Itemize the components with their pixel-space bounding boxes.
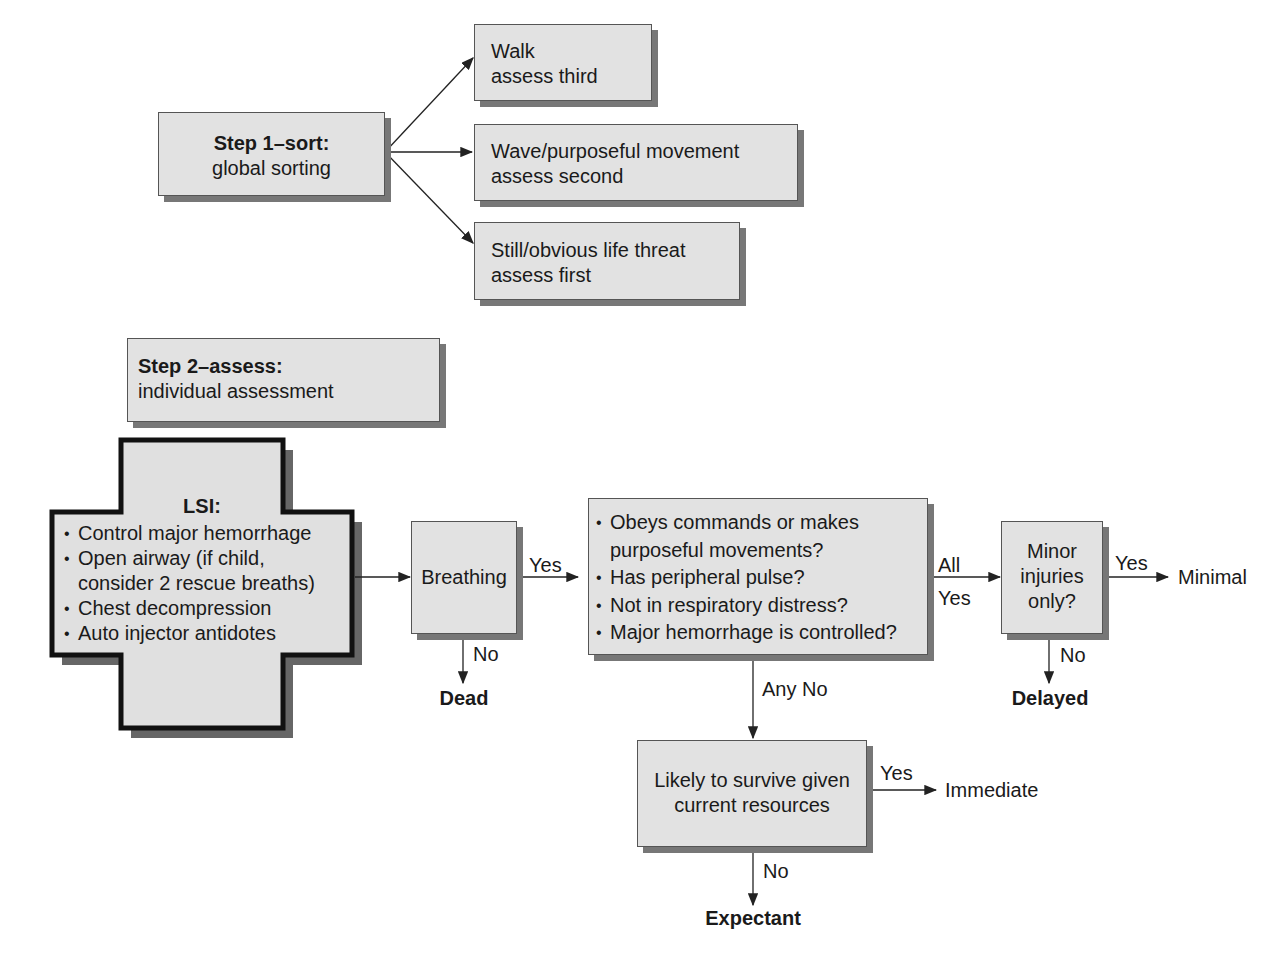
breathing-no-label: No (473, 642, 499, 667)
all-yes-label-1: All (938, 553, 960, 578)
minor-line1: Minor (1001, 539, 1103, 564)
breathing-yes-label: Yes (529, 553, 562, 578)
check-item: Not in respiratory distress? (596, 592, 897, 620)
minor-line2: injuries (1001, 564, 1103, 589)
step2-subtitle: individual assessment (138, 379, 334, 404)
sort-wave-priority: assess second (491, 164, 739, 189)
survive-text: Likely to survive given current resource… (637, 768, 867, 818)
lsi-item: Open airway (if child, (64, 546, 315, 571)
sort-still-priority: assess first (491, 263, 686, 288)
check-item: Major hemorrhage is controlled? (596, 619, 897, 647)
sort-box-still-text: Still/obvious life threat assess first (491, 238, 686, 288)
sort-wave-label: Wave/purposeful movement (491, 139, 739, 164)
lsi-item: Chest decompression (64, 596, 315, 621)
outcome-dead: Dead (424, 686, 504, 711)
outcome-delayed: Delayed (990, 686, 1110, 711)
sort-box-wave-text: Wave/purposeful movement assess second (491, 139, 739, 189)
outcome-minimal: Minimal (1178, 565, 1247, 590)
step1-title: Step 1–sort: (158, 131, 385, 156)
sort-walk-label: Walk (491, 39, 598, 64)
sort-box-walk-text: Walk assess third (491, 39, 598, 89)
breathing-label: Breathing (411, 565, 517, 590)
survive-line2: current resources (637, 793, 867, 818)
step2-title: Step 2–assess: (138, 354, 334, 379)
step2-text: Step 2–assess: individual assessment (138, 354, 334, 404)
minor-no-label: No (1060, 643, 1086, 668)
lsi-title: LSI: (121, 494, 283, 519)
step1-subtitle: global sorting (158, 156, 385, 181)
check-item: Has peripheral pulse? (596, 564, 897, 592)
lsi-item: Auto injector antidotes (64, 621, 315, 646)
minor-yes-label: Yes (1115, 551, 1148, 576)
sort-still-label: Still/obvious life threat (491, 238, 686, 263)
lsi-item: Control major hemorrhage (64, 521, 315, 546)
step1-text: Step 1–sort: global sorting (158, 131, 385, 181)
minor-line3: only? (1001, 589, 1103, 614)
any-no-label: Any No (762, 677, 828, 702)
survive-yes-label: Yes (880, 761, 913, 786)
check-item-continued: purposeful movements? (596, 537, 897, 565)
check-item: Obeys commands or makes (596, 509, 897, 537)
outcome-immediate: Immediate (945, 778, 1038, 803)
minor-injuries-text: Minor injuries only? (1001, 539, 1103, 614)
sort-walk-priority: assess third (491, 64, 598, 89)
lsi-item-continued: consider 2 rescue breaths) (64, 571, 315, 596)
all-yes-label-2: Yes (938, 586, 971, 611)
survive-line1: Likely to survive given (637, 768, 867, 793)
outcome-expectant: Expectant (683, 906, 823, 931)
checks-list: Obeys commands or makes purposeful movem… (596, 509, 897, 647)
survive-no-label: No (763, 859, 789, 884)
lsi-list: Control major hemorrhage Open airway (if… (64, 521, 315, 646)
